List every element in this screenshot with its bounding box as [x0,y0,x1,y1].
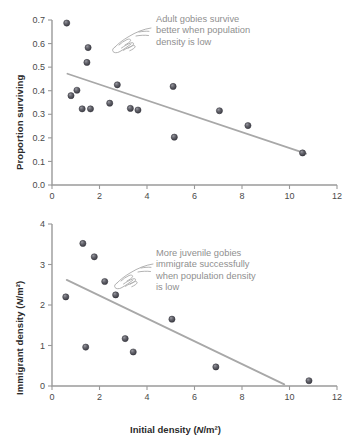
x-tick-label: 0 [49,392,54,402]
data-point [74,87,80,93]
x-tick-label: 12 [332,191,342,201]
scatter-plot-immigrant-density: 02468101201234 [0,210,351,445]
y-tick-label: 2 [40,300,45,310]
x-tick-label: 6 [192,191,197,201]
data-point [245,123,251,129]
data-point [83,344,89,350]
x-tick-label: 8 [239,392,244,402]
x-tick-label: 8 [239,191,244,201]
data-point [169,316,175,322]
y-tick-label: 0.3 [32,109,45,119]
y-axis-label-bottom-italic: N [14,299,25,306]
x-axis-label-pre: Initial density ( [130,424,197,435]
chart-panel-top: 0246810120.00.10.20.30.40.50.60.7 Propor… [0,0,351,210]
data-point [114,82,120,88]
data-point [64,20,70,26]
y-tick-label: 0.1 [32,157,45,167]
data-point [85,44,91,50]
data-point [68,93,74,99]
y-tick-label: 0.7 [32,15,45,25]
y-tick-label: 4 [40,219,45,229]
data-point [299,150,305,156]
y-tick-label: 0.5 [32,62,45,72]
pointing-hand-icon [110,26,154,60]
data-point [80,240,86,246]
data-point [122,336,128,342]
chart-panel-bottom: 02468101201234 [0,210,351,445]
y-axis-label-top: Proportion surviving [14,75,25,170]
x-tick-label: 10 [284,191,294,201]
data-point [130,349,136,355]
y-tick-label: 1 [40,341,45,351]
data-point [91,254,97,260]
x-axis-label-post: /m²) [203,424,220,435]
x-tick-label: 4 [144,392,149,402]
data-point [84,59,90,65]
data-point [135,107,141,113]
x-tick-label: 12 [332,392,342,402]
trend-line [67,74,306,154]
y-tick-label: 0 [40,381,45,391]
y-tick-label: 0.0 [32,180,45,190]
y-tick-label: 0.6 [32,39,45,49]
trend-line [67,280,285,384]
annotation-text-bottom: More juvenile gobies immigrate successfu… [156,248,296,294]
y-tick-label: 3 [40,260,45,270]
data-point [216,108,222,114]
x-axis-label: Initial density (N/m²) [0,424,351,435]
annotation-text-top: Adult gobies survive better when populat… [156,14,286,48]
y-tick-label: 0.2 [32,133,45,143]
data-point [63,294,69,300]
data-point [107,100,113,106]
x-tick-label: 2 [97,191,102,201]
data-point [79,106,85,112]
y-axis-label-bottom-post: /m²) [14,281,25,299]
y-tick-label: 0.4 [32,86,45,96]
data-point [171,134,177,140]
data-point [102,278,108,284]
y-axis-label-bottom-pre: Immigrant density ( [14,305,25,395]
x-tick-label: 4 [144,191,149,201]
y-axis-label-bottom: Immigrant density (N/m²) [14,281,25,395]
data-point [87,106,93,112]
pointing-hand-icon [112,262,156,296]
data-point [127,105,133,111]
data-point [170,83,176,89]
data-point [306,378,312,384]
x-tick-label: 10 [284,392,294,402]
x-tick-label: 6 [192,392,197,402]
figure-container: 0246810120.00.10.20.30.40.50.60.7 Propor… [0,0,351,445]
data-point [213,364,219,370]
x-tick-label: 2 [97,392,102,402]
x-tick-label: 0 [49,191,54,201]
